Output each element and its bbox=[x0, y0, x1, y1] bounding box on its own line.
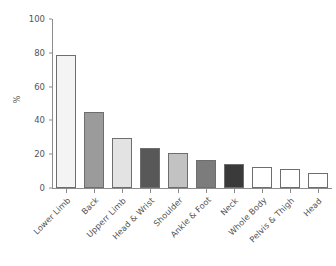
y-tick-mark bbox=[49, 154, 52, 155]
x-tick-mark bbox=[178, 189, 179, 193]
y-tick-mark bbox=[49, 120, 52, 121]
y-tick-label: 60 bbox=[34, 82, 45, 91]
y-tick-label: 80 bbox=[34, 49, 45, 58]
x-tick-label: Back bbox=[80, 196, 100, 216]
bar bbox=[84, 112, 104, 188]
y-tick-mark bbox=[49, 52, 52, 53]
x-tick-label: Upperr Limb bbox=[85, 196, 127, 238]
bar bbox=[56, 55, 76, 189]
y-tick-mark bbox=[49, 188, 52, 189]
y-axis-tick-labels: 020406080100 bbox=[0, 0, 52, 266]
y-tick-label: 0 bbox=[40, 184, 45, 193]
x-tick-mark bbox=[206, 189, 207, 193]
x-tick-mark bbox=[150, 189, 151, 193]
bar bbox=[112, 138, 132, 188]
x-tick-mark bbox=[290, 189, 291, 193]
x-tick-mark bbox=[234, 189, 235, 193]
x-tick-mark bbox=[262, 189, 263, 193]
bar bbox=[308, 173, 328, 188]
y-tick-label: 40 bbox=[34, 116, 45, 125]
bar bbox=[168, 153, 188, 188]
x-tick-mark bbox=[94, 189, 95, 193]
x-tick-label: Ankle & Foot bbox=[169, 196, 212, 239]
x-tick-label: Shoulder bbox=[152, 196, 184, 228]
bar bbox=[252, 167, 272, 188]
bar bbox=[140, 148, 160, 188]
x-tick-label: Head bbox=[302, 196, 323, 217]
x-tick-mark bbox=[318, 189, 319, 193]
y-tick-mark bbox=[49, 19, 52, 20]
bar bbox=[280, 169, 300, 188]
bar bbox=[196, 160, 216, 188]
x-tick-label: Whole Body bbox=[227, 196, 268, 237]
x-tick-mark bbox=[66, 189, 67, 193]
x-tick-label: Neck bbox=[219, 196, 240, 217]
y-tick-mark bbox=[49, 86, 52, 87]
bar bbox=[224, 164, 244, 188]
x-tick-label: Head & Wrist bbox=[111, 196, 156, 241]
x-tick-mark bbox=[122, 189, 123, 193]
bar-chart: % 020406080100 Lower LimbBackUpperr Limb… bbox=[0, 0, 336, 266]
y-tick-label: 100 bbox=[29, 15, 45, 24]
x-tick-label: Pelvis & Thigh bbox=[248, 196, 296, 244]
y-tick-label: 20 bbox=[34, 150, 45, 159]
plot-area bbox=[52, 19, 332, 188]
